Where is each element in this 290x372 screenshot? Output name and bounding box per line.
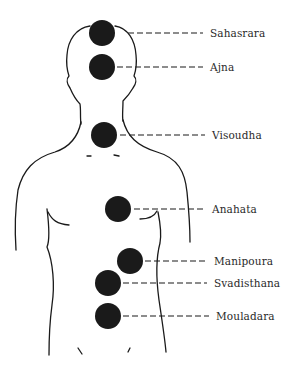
right-pectoral <box>140 211 157 219</box>
chakra-dot-ajna <box>89 54 115 80</box>
left-torso <box>47 209 53 355</box>
chakra-label-manipoura: Manipoura <box>214 255 273 267</box>
hip-mark-right <box>128 348 130 352</box>
chakra-label-mouladara: Mouladara <box>216 310 275 322</box>
chakra-label-ajna: Ajna <box>210 61 234 73</box>
head-outline <box>67 26 90 124</box>
left-pectoral <box>48 212 69 225</box>
chakra-dot-manipoura <box>117 248 143 274</box>
chakra-dot-mouladara <box>95 303 121 329</box>
chakra-dot-sahasrara <box>89 20 115 46</box>
head-outline-right <box>115 26 136 121</box>
chakra-dot-visoudha <box>91 122 117 148</box>
right-torso <box>157 212 166 352</box>
hip-mark-left <box>78 348 82 354</box>
chakra-label-visoudha: Visoudha <box>212 129 262 141</box>
chakra-label-sahasrara: Sahasrara <box>210 27 265 39</box>
chakra-label-anahata: Anahata <box>212 203 257 215</box>
chakra-dot-svadisthana <box>95 270 121 296</box>
chakra-label-svadisthana: Svadisthana <box>214 277 280 289</box>
chakra-diagram: SahasraraAjnaVisoudhaAnahataManipouraSva… <box>0 0 290 372</box>
collarbone-right <box>114 155 119 156</box>
chakra-dot-anahata <box>105 196 131 222</box>
right-shoulder-arm <box>123 120 190 242</box>
